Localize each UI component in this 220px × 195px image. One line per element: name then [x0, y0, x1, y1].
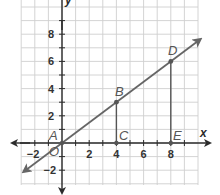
x-tick-label-8: 8 — [168, 148, 174, 160]
point-o — [60, 141, 64, 145]
y-tick-label-2: 2 — [48, 110, 54, 122]
x-tick-label-6: 6 — [141, 148, 147, 160]
coordinate-plane-chart: −2 2 4 6 8 8 6 4 2 −2 x y A O B C D E — [0, 0, 220, 195]
x-tick-label-neg2: −2 — [27, 148, 40, 160]
point-d — [168, 59, 173, 64]
x-axis-label: x — [199, 126, 208, 140]
point-label-a: A — [48, 128, 58, 143]
point-label-b: B — [115, 84, 124, 99]
point-label-d: D — [168, 43, 177, 58]
point-label-e: E — [173, 128, 182, 143]
x-tick-label-4: 4 — [113, 148, 120, 160]
x-tick-label-2: 2 — [86, 148, 92, 160]
y-tick-label-4: 4 — [48, 83, 55, 95]
point-label-o: O — [49, 144, 59, 159]
point-label-c: C — [119, 128, 129, 143]
y-axis-label: y — [64, 0, 73, 7]
point-c — [114, 141, 118, 145]
y-tick-label-6: 6 — [48, 55, 54, 67]
y-tick-label-neg2: −2 — [43, 164, 56, 176]
y-tick-label-8: 8 — [48, 28, 54, 40]
point-b — [114, 100, 119, 105]
